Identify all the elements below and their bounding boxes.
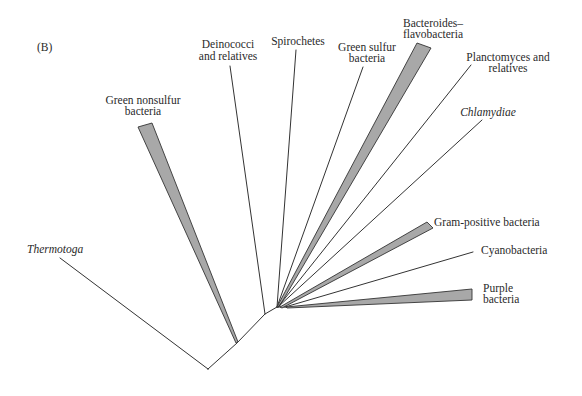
root-to-node1-branch: [208, 343, 237, 369]
planctomyces-branch: [278, 65, 471, 307]
tree-backbone: [207, 307, 287, 370]
bacteroides-label-line2: flavobacteria: [403, 28, 463, 40]
deinococci-label-line1: Deinococci: [202, 38, 254, 50]
green-sulfur-label-line2: bacteria: [349, 52, 385, 64]
panel-label: (B): [37, 41, 53, 54]
chlamydiae-label: Chlamydiae: [460, 106, 516, 119]
node1-to-node2-branch: [237, 314, 265, 343]
deinococci-branch: [230, 66, 265, 314]
taxon-planctomyces: Planctomyces and relatives: [278, 51, 550, 307]
taxon-chlamydiae: Chlamydiae: [278, 106, 516, 307]
thermotoga-label: Thermotoga: [27, 243, 83, 256]
taxon-green-sulfur: Green sulfur bacteria: [277, 41, 396, 307]
planctomyces-label-line2: relatives: [489, 62, 528, 74]
phylogenetic-tree-figure: (B) Thermotoga Green nonsulfur bacteria …: [0, 0, 582, 396]
green-nonsulfur-wedge: [138, 123, 238, 343]
spirochetes-branch: [277, 50, 296, 307]
green-nonsulfur-label-line2: bacteria: [125, 105, 161, 117]
gram-positive-label: Gram-positive bacteria: [434, 216, 540, 229]
cyanobacteria-label: Cyanobacteria: [481, 244, 547, 257]
tree-canvas: (B) Thermotoga Green nonsulfur bacteria …: [0, 0, 582, 396]
node2-to-node3-branch: [265, 307, 277, 314]
purple-label-line2: bacteria: [483, 293, 519, 305]
spirochetes-label: Spirochetes: [271, 35, 325, 48]
taxon-thermotoga: Thermotoga: [27, 243, 208, 369]
deinococci-label-line2: and relatives: [199, 50, 258, 62]
thermotoga-branch: [60, 258, 208, 369]
taxon-green-nonsulfur: Green nonsulfur bacteria: [105, 94, 238, 343]
